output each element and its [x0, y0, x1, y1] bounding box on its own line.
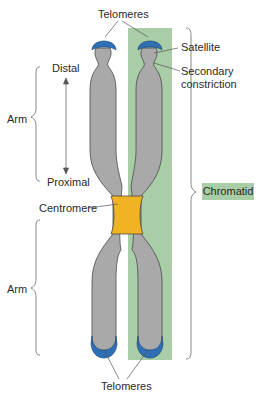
chromatid-label: Chromatid: [202, 183, 254, 200]
distal-proximal-arrow-icon: [64, 78, 69, 174]
centromere-label: Centromere: [39, 202, 97, 214]
chromosome-diagram: Telomeres Satellite Secondary constricti…: [0, 0, 264, 400]
arm-upper-label: Arm: [7, 113, 27, 125]
secondary-constriction-label-line2: constriction: [181, 78, 237, 90]
telomeres-bottom-label: Telomeres: [101, 380, 152, 392]
arm-lower-brace-icon: [31, 220, 40, 355]
proximal-label: Proximal: [47, 176, 90, 188]
satellite-label: Satellite: [181, 41, 220, 53]
centromere-region: [111, 196, 143, 234]
telomeres-top-leader-left: [105, 21, 118, 37]
arm-upper-brace-icon: [31, 67, 40, 181]
telomeres-top-label: Telomeres: [98, 8, 149, 20]
arm-lower-label: Arm: [7, 283, 27, 295]
secondary-constriction-label-line1: Secondary: [181, 65, 234, 77]
distal-label: Distal: [52, 62, 80, 74]
